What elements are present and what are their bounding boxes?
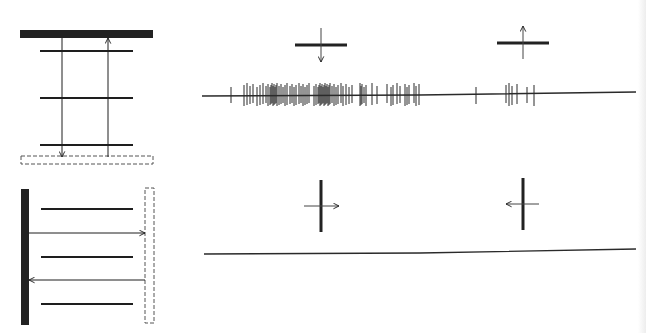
bottom-stimulus-icons <box>304 178 539 232</box>
top-spike-trace <box>202 83 636 106</box>
trace-baseline <box>204 249 636 254</box>
solid-bar <box>21 189 29 325</box>
stimulus-right-icon <box>304 180 339 232</box>
bottom-schematic-diagram <box>21 188 154 325</box>
dashed-bar <box>145 188 154 323</box>
figure <box>0 0 646 333</box>
stimulus-down-icon <box>295 28 347 62</box>
top-schematic-diagram <box>20 30 153 164</box>
page-edge-shadow <box>638 0 646 333</box>
stimulus-left-icon <box>506 178 539 230</box>
figure-canvas <box>0 0 646 333</box>
bottom-spike-trace <box>204 249 636 254</box>
solid-bar <box>20 30 153 38</box>
stimulus-up-icon <box>497 26 549 59</box>
top-stimulus-icons <box>295 26 549 62</box>
dashed-bar <box>21 156 153 164</box>
